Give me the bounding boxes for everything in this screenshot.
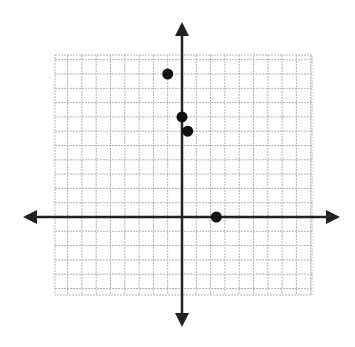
data-point — [162, 69, 173, 80]
data-point — [177, 111, 188, 122]
grid-lines — [55, 55, 312, 295]
data-point — [211, 212, 222, 223]
arrow-left-icon — [23, 210, 37, 224]
arrow-down-icon — [175, 313, 189, 327]
arrow-right-icon — [326, 210, 340, 224]
grid-border — [55, 55, 312, 295]
coordinate-plane — [0, 0, 355, 347]
data-point — [182, 126, 193, 137]
arrow-up-icon — [175, 22, 189, 36]
